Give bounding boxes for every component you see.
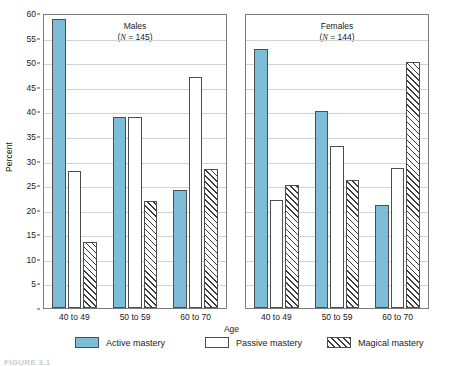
y-tick-mark-45 [37, 87, 40, 88]
y-tick-mark-15 [37, 235, 40, 236]
bar-females-60-to-70-passive [391, 168, 405, 308]
y-tick-mark-20 [37, 210, 40, 211]
chart-legend: Active masteryPassive masteryMagical mas… [0, 337, 463, 353]
bar-females-50-to-59-passive [330, 146, 344, 308]
y-tick-label-40: 40 [27, 108, 36, 117]
y-tick-mark-35 [37, 136, 40, 137]
panel-females: Females (N = 144) [245, 14, 429, 309]
y-tick-mark-40 [37, 112, 40, 113]
figure-bar-chart: Percent 51015202530354045505560 Males (N… [0, 0, 463, 366]
bar-females-50-to-59-active [315, 111, 329, 308]
panel-males: Males (N = 145) [43, 14, 227, 309]
x-axis-label: Age [0, 324, 463, 334]
x-group-label-males-50-to-59: 50 to 59 [120, 312, 151, 322]
bar-males-60-to-70-active [173, 190, 187, 308]
gridline-50 [44, 64, 226, 65]
y-tick-label-50: 50 [27, 59, 36, 68]
gridline-50 [246, 64, 428, 65]
gridline-40 [246, 113, 428, 114]
bar-females-40-to-49-active [254, 49, 268, 308]
x-tick-mark [74, 308, 75, 309]
bar-males-60-to-70-magical [204, 169, 218, 308]
bar-females-40-to-49-passive [270, 200, 284, 308]
bar-males-40-to-49-passive [68, 171, 82, 308]
y-tick-mark-25 [37, 186, 40, 187]
y-tick-label-35: 35 [27, 133, 36, 142]
y-tick-label-5: 5 [31, 280, 36, 289]
legend-item-active: Active mastery [75, 337, 165, 348]
x-tick-mark [196, 308, 197, 309]
legend-label-passive: Passive mastery [236, 338, 302, 348]
x-tick-mark [135, 308, 136, 309]
legend-item-passive: Passive mastery [205, 337, 302, 348]
y-tick-label-60: 60 [27, 10, 36, 19]
y-tick-label-20: 20 [27, 206, 36, 215]
y-tick-mark-30 [37, 161, 40, 162]
bar-males-50-to-59-active [113, 117, 127, 308]
bar-males-40-to-49-active [52, 19, 66, 308]
legend-item-magical: Magical mastery [327, 337, 424, 348]
bar-females-60-to-70-active [375, 205, 389, 308]
legend-swatch-passive-icon [205, 337, 229, 348]
y-tick-mark-60 [37, 14, 40, 15]
bar-females-60-to-70-magical [406, 62, 420, 308]
legend-swatch-magical-icon [327, 337, 351, 348]
y-tick-label-30: 30 [27, 157, 36, 166]
bar-males-40-to-49-magical [83, 242, 97, 308]
legend-swatch-active-icon [75, 337, 99, 348]
x-tick-mark [337, 308, 338, 309]
gridline-55 [246, 40, 428, 41]
bar-females-50-to-59-magical [346, 180, 360, 308]
panel-females-title-text: Females [321, 21, 354, 31]
panel-females-n: (N = 144) [246, 32, 428, 43]
legend-label-magical: Magical mastery [358, 338, 424, 348]
y-tick-mark-5 [37, 284, 40, 285]
figure-caption: FIGURE 3.1 [4, 358, 51, 366]
legend-label-active: Active mastery [106, 338, 165, 348]
y-tick-label-25: 25 [27, 182, 36, 191]
x-group-label-females-60-to-70: 60 to 70 [382, 312, 413, 322]
bar-females-40-to-49-magical [285, 185, 299, 308]
y-tick-mark-10 [37, 259, 40, 260]
y-tick-label-15: 15 [27, 231, 36, 240]
y-tick-label-45: 45 [27, 84, 36, 93]
y-axis-label: Percent [4, 127, 14, 187]
x-group-label-females-40-to-49: 40 to 49 [261, 312, 292, 322]
gridline-55 [44, 40, 226, 41]
panel-males-title-text: Males [124, 21, 147, 31]
y-tick-label-10: 10 [27, 256, 36, 265]
y-tick-label-55: 55 [27, 34, 36, 43]
gridline-45 [246, 89, 428, 90]
bar-males-60-to-70-passive [189, 77, 203, 308]
y-tick-mark-50 [37, 63, 40, 64]
y-axis-ticks: 51015202530354045505560 [16, 14, 40, 309]
bar-males-50-to-59-passive [128, 117, 142, 308]
panel-males-n: (N = 145) [44, 32, 226, 43]
y-tick-mark-0 [37, 309, 40, 310]
y-tick-mark-55 [37, 38, 40, 39]
x-tick-mark [276, 308, 277, 309]
x-group-label-males-60-to-70: 60 to 70 [180, 312, 211, 322]
gridline-35 [246, 138, 428, 139]
x-group-label-females-50-to-59: 50 to 59 [322, 312, 353, 322]
x-tick-mark [398, 308, 399, 309]
x-group-label-males-40-to-49: 40 to 49 [59, 312, 90, 322]
bar-males-50-to-59-magical [144, 201, 158, 308]
